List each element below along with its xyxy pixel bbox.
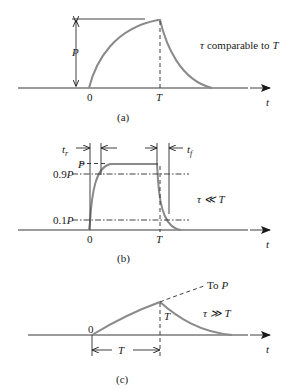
origin-label: 0: [88, 323, 94, 335]
panel-b: tr tf P 0.9P 0.1P 0 T t τ ≪ T (b): [18, 143, 270, 265]
level-01p-label: 0.1P: [53, 214, 74, 226]
condition-label: τ ≫ T: [203, 307, 231, 319]
condition-label: τ ≪ T: [197, 193, 225, 205]
axis-label: t: [266, 96, 270, 108]
period-label: T: [164, 310, 171, 322]
axis-label: t: [266, 238, 270, 250]
width-label: T: [118, 344, 125, 356]
rise-time-label: tr: [62, 143, 69, 158]
panel-c: ToP 0 T T t τ ≫ T (c): [28, 279, 270, 386]
level-p-label: P: [77, 158, 85, 170]
response-curve: [89, 20, 212, 88]
amplitude-label: P: [71, 46, 79, 58]
level-09p-label: 0.9P: [53, 168, 74, 180]
caption-a: (a): [117, 111, 130, 124]
period-label: T: [156, 91, 163, 103]
axis-label: t: [266, 343, 270, 355]
asymptote-dashed: [160, 286, 204, 302]
caption-b: (b): [117, 252, 130, 265]
fall-time-label: tf: [187, 143, 194, 158]
pulse-response-figure: P 0 T t τcomparable toT (a) tr: [0, 0, 302, 389]
origin-label: 0: [87, 233, 93, 245]
origin-label: 0: [87, 91, 93, 103]
period-label: T: [156, 233, 163, 245]
caption-c: (c): [116, 373, 129, 386]
asymptote-label: ToP: [207, 279, 228, 291]
panel-a: P 0 T t τcomparable toT (a): [18, 19, 280, 124]
condition-label: τcomparable toT: [200, 39, 280, 51]
